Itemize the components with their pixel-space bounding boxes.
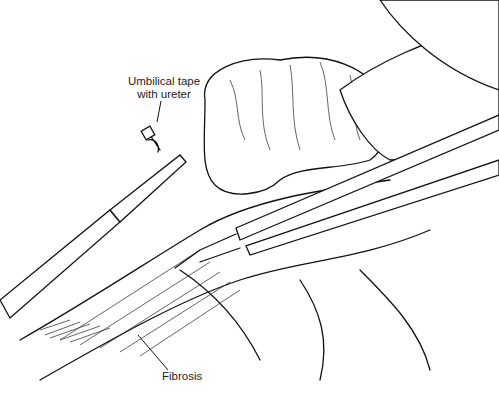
fibrosis-hatching xyxy=(40,320,110,342)
umbilical-tape-label: Umbilical tape with ureter xyxy=(118,75,210,101)
left-grasper xyxy=(0,126,186,318)
surgical-illustration xyxy=(0,0,499,403)
fibrosis-label: Fibrosis xyxy=(162,370,202,383)
umbilical-tape-label-line1: Umbilical tape xyxy=(118,75,210,88)
tape-leader-line xyxy=(157,101,161,122)
umbilical-tape-label-line2: with ureter xyxy=(118,88,210,101)
